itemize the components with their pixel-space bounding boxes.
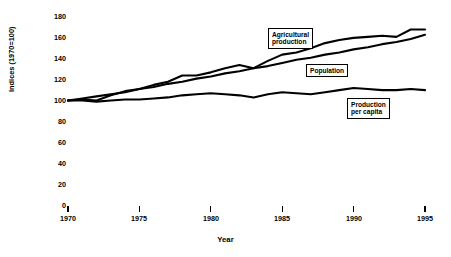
x-axis-title: Year [0,235,451,244]
callout-production-per-capita: Production per capita [347,98,390,119]
series-lines [68,30,425,102]
plot-area [0,0,451,257]
chart-figure: Indices (1970=100) 0 20 40 60 80 100 120… [0,0,451,257]
callout-agricultural-production: Agricultural production [268,28,313,49]
x-axis-tick-marks [68,206,425,212]
callout-population: Population [306,64,348,77]
